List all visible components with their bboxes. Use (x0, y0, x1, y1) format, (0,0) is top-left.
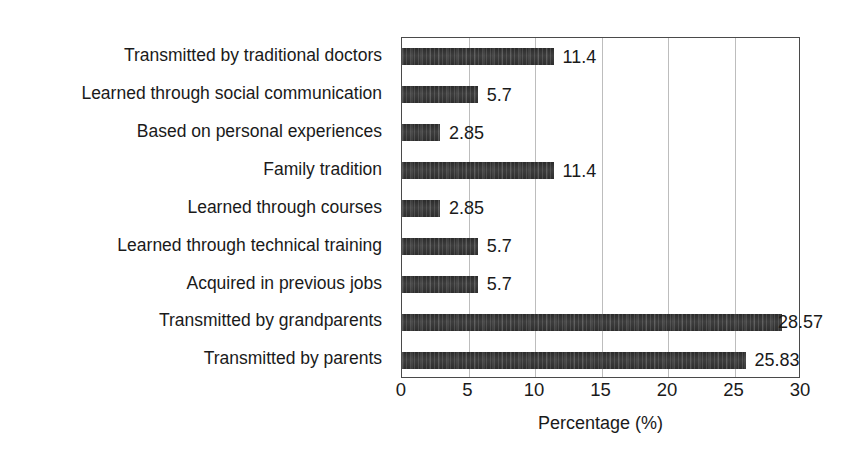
x-tick-label: 30 (790, 381, 811, 400)
bar-value-label: 11.4 (563, 162, 597, 180)
bar (402, 238, 478, 255)
bar (402, 314, 782, 331)
bar (402, 86, 478, 103)
bar-value-label: 2.85 (449, 124, 484, 142)
category-label: Learned through courses (187, 199, 391, 217)
category-label: Transmitted by parents (204, 350, 391, 368)
bar-value-label: 25.83 (755, 351, 800, 369)
bar-value-label: 2.85 (449, 199, 484, 217)
bar-row: 2.85 (402, 190, 799, 228)
bar-value-label: 5.7 (487, 86, 512, 104)
bar-row: 5.7 (402, 76, 799, 114)
bar (402, 48, 554, 65)
x-axis-title: Percentage (%) (401, 414, 800, 432)
category-label-row: Learned through social communication (0, 75, 391, 113)
bar-row: 25.83 (402, 341, 799, 379)
x-tick-label: 25 (723, 381, 744, 400)
bar-value-label: 5.7 (487, 237, 512, 255)
category-label: Family tradition (263, 161, 391, 179)
category-label-row: Based on personal experiences (0, 113, 391, 151)
category-label: Learned through technical training (117, 237, 391, 255)
x-tick-label: 5 (462, 381, 472, 400)
bar-row: 2.85 (402, 114, 799, 152)
bar (402, 124, 440, 141)
bar-value-label: 28.57 (778, 313, 823, 331)
category-label: Transmitted by grandparents (159, 312, 391, 330)
bar (402, 162, 554, 179)
x-tick-label: 20 (657, 381, 678, 400)
category-label: Acquired in previous jobs (186, 275, 391, 293)
category-label: Transmitted by traditional doctors (124, 47, 391, 65)
category-label-row: Learned through technical training (0, 226, 391, 264)
bar-value-label: 5.7 (487, 275, 512, 293)
category-label-row: Transmitted by traditional doctors (0, 37, 391, 75)
category-axis-labels: Transmitted by traditional doctorsLearne… (0, 37, 391, 378)
bar-row: 5.7 (402, 265, 799, 303)
bar-series: 11.45.72.8511.42.855.75.728.5725.83 (402, 38, 799, 377)
bar-row: 5.7 (402, 227, 799, 265)
bar-row: 11.4 (402, 152, 799, 190)
category-label-row: Transmitted by parents (0, 340, 391, 378)
category-label-row: Learned through courses (0, 189, 391, 227)
bar (402, 352, 746, 369)
category-label-row: Family tradition (0, 151, 391, 189)
bar (402, 276, 478, 293)
chart-figure: Transmitted by traditional doctorsLearne… (0, 0, 845, 452)
x-axis-tick-labels: 051015202530 (401, 381, 800, 407)
x-tick-label: 15 (590, 381, 611, 400)
category-label-row: Acquired in previous jobs (0, 264, 391, 302)
x-tick-label: 0 (396, 381, 406, 400)
bar-row: 11.4 (402, 38, 799, 76)
bar-row: 28.57 (402, 303, 799, 341)
category-label: Based on personal experiences (137, 123, 391, 141)
bar-value-label: 11.4 (563, 48, 597, 66)
bar (402, 200, 440, 217)
plot-area: 11.45.72.8511.42.855.75.728.5725.83 (401, 37, 800, 378)
x-tick-label: 10 (524, 381, 545, 400)
category-label-row: Transmitted by grandparents (0, 302, 391, 340)
category-label: Learned through social communication (81, 85, 391, 103)
